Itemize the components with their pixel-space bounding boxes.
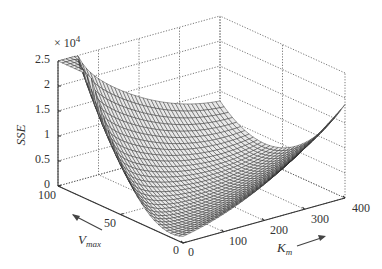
z-tick-0.5: 0.5 [35,152,50,166]
x-tick-100: 100 [229,234,247,248]
y-tick-50: 50 [104,216,116,230]
x-tick-200: 200 [270,223,288,237]
surface-plot: 0 0.5 1 1.5 2 2.5 × 104 SSE 100 50 0 0 1… [0,0,382,269]
y-tick-0: 0 [173,243,179,257]
x-axis-label: Km [276,240,293,257]
z-tick-1.5: 1.5 [35,102,50,116]
y-tick-100: 100 [38,188,56,202]
x-tick-300: 300 [311,212,329,226]
x-axis-arrow-icon [297,235,326,246]
z-tick-2: 2 [44,77,50,91]
z-axis-label: SSE [13,124,28,145]
z-tick-2.5: 2.5 [35,52,50,66]
y-axis-arrow-icon [72,214,102,230]
x-tick-0: 0 [188,245,194,259]
y-axis-label: Vmax [78,232,101,249]
z-tick-1: 1 [44,127,50,141]
x-tick-400: 400 [352,201,370,215]
z-multiplier: × 104 [54,34,81,50]
